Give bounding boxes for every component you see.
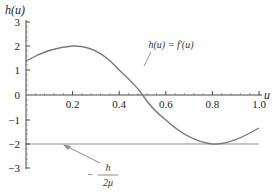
y-tick-neg3: −3: [8, 162, 20, 174]
x-tick-0.6: 0.6: [159, 98, 173, 110]
x-tick-0.8: 0.8: [206, 98, 220, 110]
frac-numerator: h: [106, 162, 111, 173]
y-tick-1: 1: [15, 64, 21, 76]
x-axis-title: u: [264, 88, 270, 102]
y-tick-0: 0: [15, 89, 21, 101]
y-axis-title: h(u): [5, 3, 25, 17]
chart: 3 2 1 0 −1 −2 −3 0.2 0.4 0.6 0.8 1.0 h(u…: [0, 0, 275, 192]
arrow-shaft: [66, 146, 100, 163]
y-tick-neg1: −1: [8, 114, 20, 126]
y-tick-3: 3: [15, 16, 21, 28]
x-tick-0.2: 0.2: [66, 98, 80, 110]
x-tick-0.4: 0.4: [112, 98, 126, 110]
curve-label: h(u) = f′(u): [148, 39, 194, 51]
y-tick-2: 2: [15, 40, 21, 52]
frac-denominator: 2μ: [103, 177, 113, 188]
y-tick-neg2: −2: [8, 138, 20, 150]
arrow-head-icon: [63, 145, 71, 151]
curve-label-leader: [144, 52, 151, 66]
chart-svg: 3 2 1 0 −1 −2 −3 0.2 0.4 0.6 0.8 1.0 h(u…: [0, 0, 275, 192]
frac-minus: −: [87, 169, 94, 180]
